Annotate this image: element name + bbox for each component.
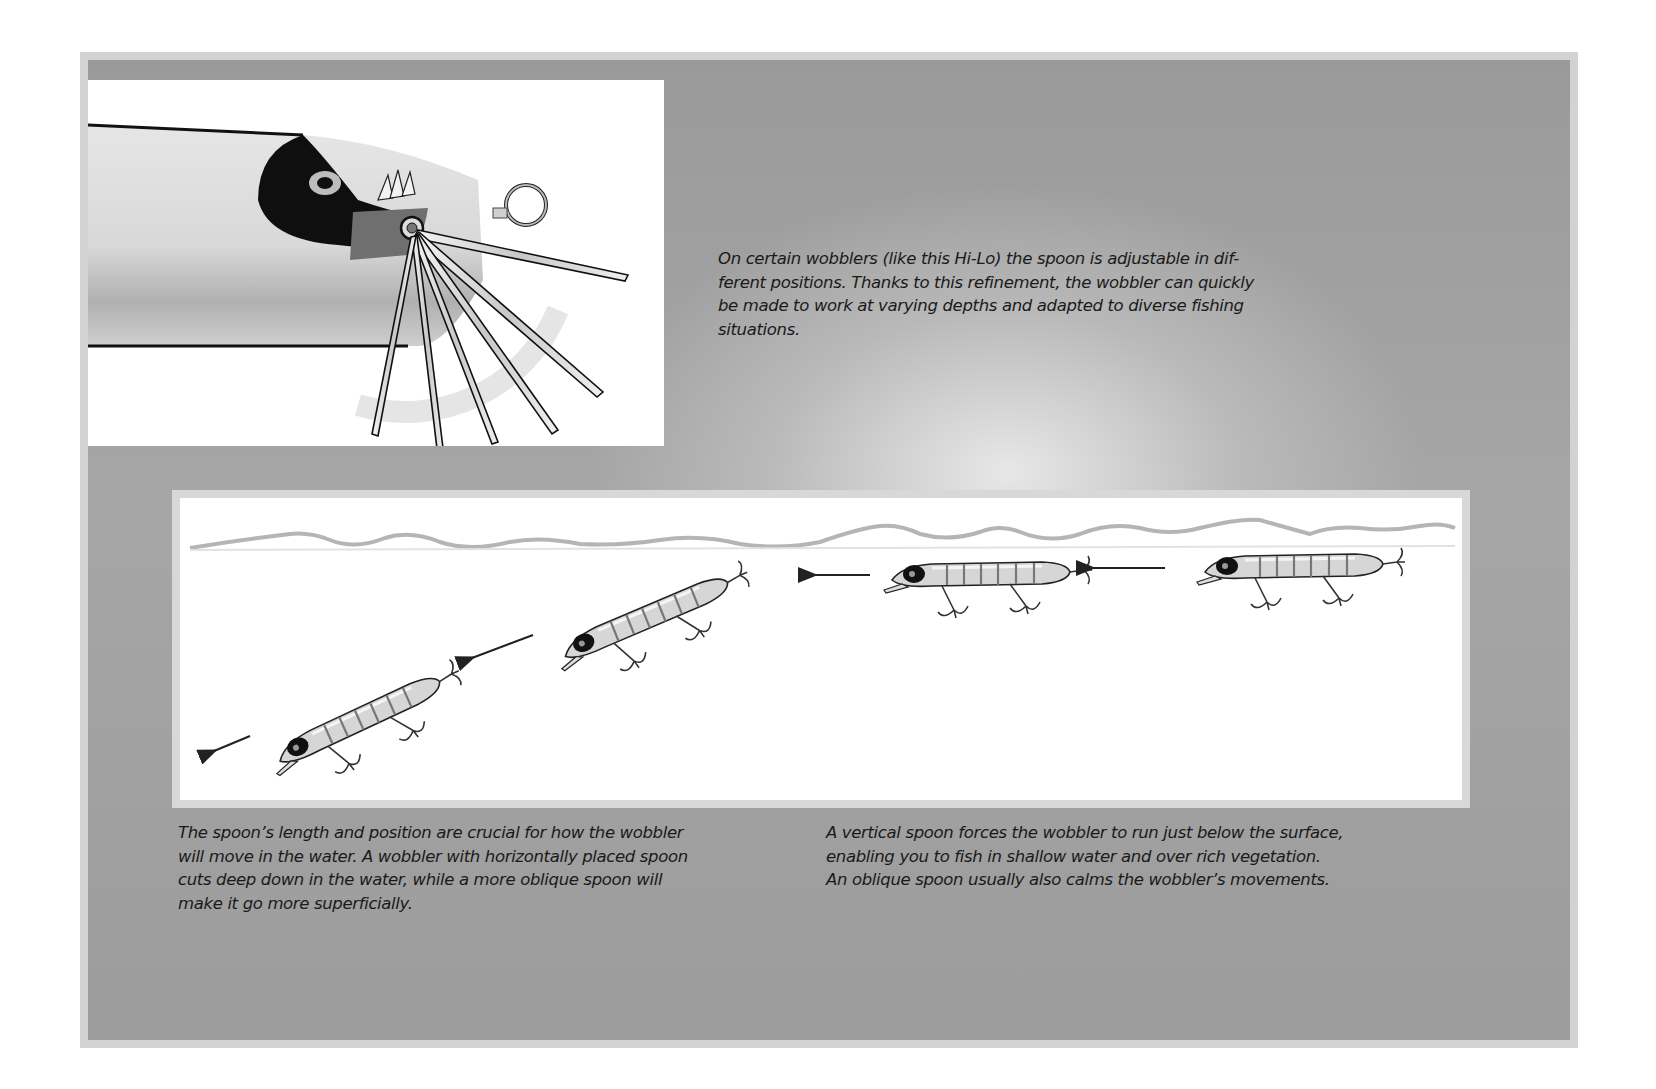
surface-runner-lure-1 <box>884 556 1092 618</box>
caption-line: ferent positions. Thanks to this refinem… <box>718 271 1318 295</box>
caption-line: The spoon’s length and position are cruc… <box>178 821 758 845</box>
deep-runner-lure-1 <box>263 658 478 799</box>
line-eye-ring-icon <box>493 185 546 225</box>
caption-vertical-spoon: A vertical spoon forces the wobbler to r… <box>826 821 1406 892</box>
figure-hilo-closeup <box>88 80 664 446</box>
caption-line: A vertical spoon forces the wobbler to r… <box>826 821 1406 845</box>
caption-line: On certain wobblers (like this Hi-Lo) th… <box>718 247 1318 271</box>
caption-line: will move in the water. A wobbler with h… <box>178 845 758 869</box>
caption-line: be made to work at varying depths and ad… <box>718 294 1318 318</box>
direction-arrow-icon <box>472 635 533 658</box>
caption-line: An oblique spoon usually also calms the … <box>826 868 1406 892</box>
caption-line: enabling you to fish in shallow water an… <box>826 845 1406 869</box>
lure-eye-icon <box>309 171 341 195</box>
caption-line: cuts deep down in the water, while a mor… <box>178 868 758 892</box>
figure-depth-comparison <box>180 498 1462 800</box>
caption-line: situations. <box>718 318 1318 342</box>
water-surface-icon <box>190 520 1455 550</box>
direction-arrow-icon <box>214 736 250 751</box>
surface-runner-lure-2 <box>1197 548 1405 610</box>
caption-hilo-adjustable-spoon: On certain wobblers (like this Hi-Lo) th… <box>718 247 1318 341</box>
caption-spoon-length-position: The spoon’s length and position are cruc… <box>178 821 758 915</box>
caption-line: make it go more superficially. <box>178 892 758 916</box>
depth-comparison-illustration <box>180 498 1462 800</box>
hilo-lure-illustration <box>88 80 664 446</box>
deep-runner-lure-2 <box>549 559 765 694</box>
